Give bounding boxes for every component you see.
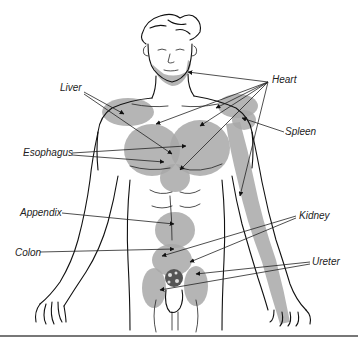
leader-colon: [40, 249, 174, 252]
label-heart: Heart: [272, 75, 296, 85]
label-ureter: Ureter: [312, 257, 340, 267]
zone-periumbilical: [155, 212, 195, 248]
zone-epigastrium: [160, 164, 190, 192]
label-liver: Liver: [60, 83, 82, 93]
label-spleen: Spleen: [285, 127, 316, 137]
label-appendix: Appendix: [20, 208, 62, 218]
body-diagram: [0, 0, 358, 344]
leader-ureter-1: [196, 262, 310, 274]
leader-heart-jaw: [188, 72, 268, 82]
leader-appendix: [62, 213, 174, 224]
label-kidney: Kidney: [299, 211, 330, 221]
label-esophagus: Esophagus: [23, 148, 73, 158]
bottom-separator: [0, 335, 358, 337]
label-colon: Colon: [15, 248, 41, 258]
ureter-speckle: [165, 269, 183, 287]
zone-left-arm: [226, 122, 290, 324]
zone-right-groin: [142, 268, 166, 308]
leader-kidney-2: [190, 218, 296, 262]
